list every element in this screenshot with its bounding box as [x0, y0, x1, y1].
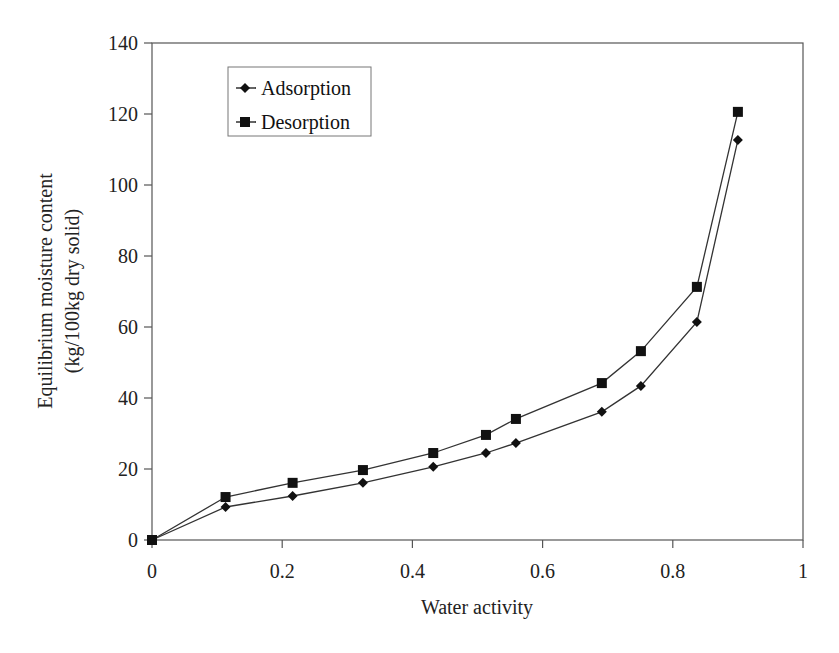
y-tick-label: 60 — [118, 316, 138, 338]
diamond-marker-icon — [597, 407, 607, 417]
square-marker-icon — [428, 448, 438, 458]
legend: Adsorption Desorption — [228, 67, 371, 136]
square-marker-icon — [147, 535, 157, 545]
y-tick-label: 40 — [118, 387, 138, 409]
y-tick-label: 120 — [108, 103, 138, 125]
x-tick-label: 0.2 — [270, 560, 295, 582]
series-line — [152, 112, 738, 540]
x-tick-label: 0.4 — [400, 560, 425, 582]
diamond-marker-icon — [358, 478, 368, 488]
diamond-marker-icon — [511, 438, 521, 448]
diamond-marker-icon — [428, 462, 438, 472]
x-axis-title: Water activity — [421, 596, 533, 619]
legend-label-desorption: Desorption — [261, 111, 350, 134]
square-marker-icon — [358, 465, 368, 475]
square-marker-icon — [692, 282, 702, 292]
square-marker-icon — [240, 117, 250, 127]
square-marker-icon — [481, 430, 491, 440]
y-tick-label: 0 — [128, 529, 138, 551]
x-axis: 00.20.40.60.81 — [147, 540, 808, 582]
series-desorption — [147, 107, 743, 545]
series-adsorption — [147, 135, 743, 545]
square-marker-icon — [288, 478, 298, 488]
y-tick-label: 100 — [108, 174, 138, 196]
series-layer — [147, 107, 743, 545]
y-axis-title-line2: (kg/100kg dry solid) — [61, 209, 84, 373]
square-marker-icon — [511, 414, 521, 424]
y-axis-title-line1: Equilibrium moisture content — [34, 173, 57, 409]
sorption-isotherm-chart: 020406080100120140 00.20.40.60.81 Water … — [0, 0, 839, 653]
square-marker-icon — [733, 107, 743, 117]
square-marker-icon — [597, 378, 607, 388]
y-tick-label: 140 — [108, 32, 138, 54]
x-tick-label: 0 — [147, 560, 157, 582]
x-tick-label: 0.6 — [530, 560, 555, 582]
y-tick-label: 80 — [118, 245, 138, 267]
legend-label-adsorption: Adsorption — [261, 77, 351, 100]
x-tick-label: 0.8 — [660, 560, 685, 582]
y-axis: 020406080100120140 — [108, 32, 152, 551]
diamond-marker-icon — [288, 491, 298, 501]
diamond-marker-icon — [733, 135, 743, 145]
x-tick-label: 1 — [798, 560, 808, 582]
square-marker-icon — [636, 346, 646, 356]
square-marker-icon — [221, 492, 231, 502]
diamond-marker-icon — [481, 448, 491, 458]
diamond-marker-icon — [221, 502, 231, 512]
y-tick-label: 20 — [118, 458, 138, 480]
